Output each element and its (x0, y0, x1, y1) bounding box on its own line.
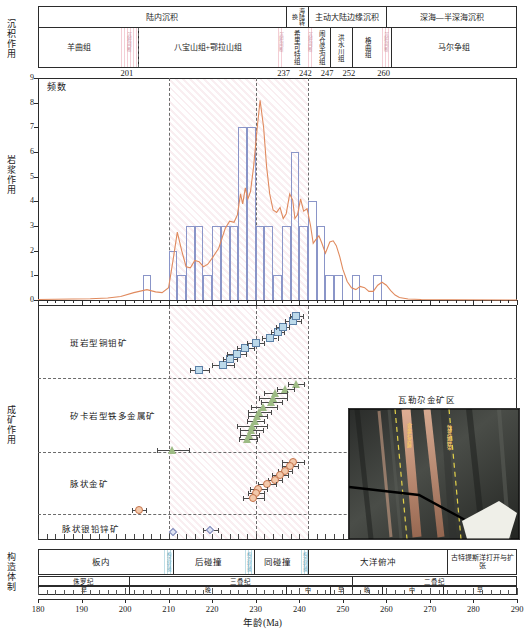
magmatism-x-tick (221, 300, 222, 303)
sediment-environment-cell: 海陆转换 (286, 7, 308, 27)
tectonic-epoch-tick (160, 590, 161, 595)
sediment-formation-cell: 洪水川组 (330, 28, 352, 67)
magmatism-y-tick-label: 6 (22, 147, 34, 156)
error-bar-cap (218, 528, 219, 533)
tectonic-epoch-divider (330, 586, 331, 595)
mineralization-x-tick (64, 534, 65, 539)
magmatism-x-tick (412, 300, 413, 303)
magmatism-x-tick (230, 300, 231, 303)
tectonic-regime-label: 古特提斯洋打开与扩张 (449, 554, 515, 570)
tectonic-epoch-tick (421, 590, 422, 595)
sediment-boundary-label: 237 (277, 68, 290, 78)
magmatism-x-tick (247, 300, 248, 303)
sediment-formation-label: 洪水川组 (337, 34, 345, 62)
x-axis-tick (343, 599, 344, 603)
magmatism-x-tick (99, 300, 100, 303)
mineralization-x-tick (108, 534, 109, 539)
magmatism-x-tick (195, 300, 196, 303)
mineralization-x-tick (212, 534, 213, 539)
tectonic-epoch-tick (212, 588, 213, 595)
mineralization-shaded-region (169, 306, 308, 539)
sediment-environment-cell: 陆内沉积 (38, 7, 286, 27)
mineralization-type-label: 斑岩型铜钼矿 (70, 336, 127, 348)
error-bar-cap (234, 363, 235, 368)
sediment-formation-cell: 八宝山组+鄂拉山组 (138, 28, 277, 67)
mineralization-x-tick (343, 534, 344, 539)
tectonic-epoch-tick (430, 588, 431, 595)
mineralization-x-tick (99, 534, 100, 539)
mineralization-x-tick (308, 534, 309, 539)
error-bar-cap (278, 336, 279, 341)
tectonic-epoch-tick (352, 590, 353, 595)
magmatism-x-tick (500, 300, 501, 303)
error-bar-cap (282, 400, 283, 405)
magmatism-x-tick (447, 300, 448, 303)
error-bar-cap (212, 363, 213, 368)
tectonic-epoch-tick (273, 590, 274, 595)
tectonic-period-label: 三叠纪 (230, 577, 251, 586)
error-bar-cap (292, 469, 293, 474)
magmatism-x-tick (151, 300, 152, 303)
error-bar-cap (209, 368, 210, 373)
x-axis-tick-label: 240 (286, 604, 312, 614)
error-bar-cap (267, 424, 268, 429)
tectonic-epoch-cell: 晚 (129, 586, 286, 595)
mineralization-type-label: 矽卡岩型铁多金属矿 (70, 409, 156, 421)
magmatism-x-tick (465, 300, 466, 303)
sediment-formation-label: 希里可特组 (292, 30, 300, 65)
magmatism-x-tick (134, 300, 135, 303)
mineralization-x-tick (160, 534, 161, 539)
mineralization-data-point (267, 398, 275, 406)
mineralization-x-tick (203, 534, 204, 539)
tectonic-epoch-tick (334, 590, 335, 595)
mineralization-x-tick (47, 534, 48, 539)
photo-inset: 含金石英脉 蚀变破碎带 (348, 408, 520, 540)
tectonic-epoch-tick (282, 590, 283, 595)
error-bar-cap (157, 448, 158, 453)
tectonic-epoch-divider (382, 586, 383, 595)
tectonic-epoch-tick (491, 590, 492, 595)
x-axis-tick (517, 599, 518, 603)
mineralization-data-point (249, 494, 257, 502)
photo-annotation-1: 含金石英脉 (405, 423, 411, 448)
mineralization-x-tick (238, 534, 239, 539)
sediment-boundary-label: 247 (321, 68, 334, 78)
error-bar-cap (251, 405, 252, 410)
tectonic-epoch-tick (230, 590, 231, 595)
tectonic-epoch-tick (360, 590, 361, 595)
error-bar-cap (262, 336, 263, 341)
tectonic-epoch-tick (151, 590, 152, 595)
error-bar-cap (264, 419, 265, 424)
magmatism-x-tick (395, 300, 396, 303)
x-axis-tick (38, 599, 39, 603)
magmatism-x-tick (203, 300, 204, 303)
photo-caption: 瓦勒尕金矿区 (398, 393, 455, 405)
magmatism-x-tick (404, 300, 405, 303)
tectonic-epoch-tick (238, 590, 239, 595)
sediment-environment-label: 主动大陆边缘沉积 (315, 13, 379, 22)
tectonic-epoch-tick (412, 590, 413, 595)
mineralization-x-tick (195, 534, 196, 539)
tectonic-epoch-tick (247, 590, 248, 595)
error-bar-cap (248, 414, 249, 419)
tectonic-epoch-tick (465, 590, 466, 595)
sediment-boundary-label: 242 (299, 68, 312, 78)
magmatism-y-tick-label: 2 (22, 246, 34, 255)
tectonic-epoch-tick (108, 590, 109, 595)
error-bar-cap (132, 508, 133, 513)
sediment-boundary-label: 201 (120, 68, 133, 78)
error-bar-cap (298, 464, 299, 469)
tectonic-transition-label: 构造转换 (166, 552, 171, 572)
mineralization-data-point (135, 506, 143, 514)
magmatism-x-tick (456, 300, 457, 303)
error-bar-cap (267, 487, 268, 492)
magmatism-x-tick (73, 300, 74, 303)
tectonic-epoch-tick (456, 590, 457, 595)
x-axis-tick (169, 599, 170, 603)
error-bar-cap (247, 341, 248, 346)
sediment-gap-label: 沉积间断 (126, 32, 131, 52)
tectonic-epoch-tick (517, 588, 518, 595)
error-bar-cap (276, 482, 277, 487)
mineralization-data-point (241, 344, 249, 352)
magmatism-x-tick (360, 300, 361, 303)
